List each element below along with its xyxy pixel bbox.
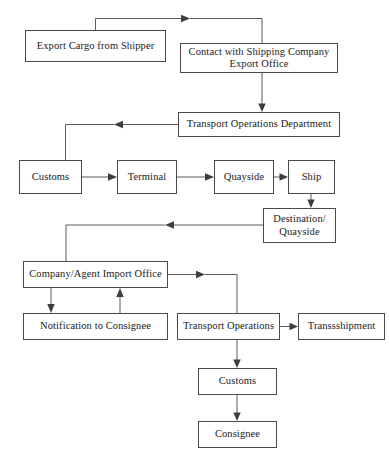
node-label: Customs xyxy=(23,171,78,183)
node-label: Terminal xyxy=(121,171,173,183)
node-transsshipment[interactable]: Transsshipment xyxy=(298,313,385,340)
node-label: Consignee xyxy=(202,428,273,440)
arrowhead-right-quayside xyxy=(205,173,214,180)
arrowhead-down-destination-quayside xyxy=(307,200,314,209)
node-label: Quayside xyxy=(218,171,270,183)
arrowhead-down-transport-operations-department xyxy=(258,104,265,113)
node-label-line2: Export Office xyxy=(184,58,334,70)
node-notification-to-consignee[interactable]: Notification to Consignee xyxy=(23,313,168,340)
node-company-agent-import-office[interactable]: Company/Agent Import Office xyxy=(23,261,168,288)
arrowhead-down-notification xyxy=(47,304,54,313)
node-consignee[interactable]: Consignee xyxy=(198,421,277,448)
arrowhead-right-terminal xyxy=(108,173,117,180)
node-customs-export[interactable]: Customs xyxy=(19,160,82,194)
node-destination-quayside[interactable]: Destination/ Quayside xyxy=(263,208,336,243)
arrowhead-right-top-rail xyxy=(181,15,190,22)
node-label: Export Cargo from Shipper xyxy=(29,40,162,52)
node-label: Company/Agent Import Office xyxy=(27,268,164,280)
node-ship[interactable]: Ship xyxy=(288,160,335,194)
arrowhead-right-transport-operations-rail xyxy=(196,271,205,278)
arrowhead-up-company-agent xyxy=(116,288,123,297)
edge-import-rail-into-company-agent xyxy=(66,225,165,261)
edge-right-rail-into-transport-operations xyxy=(205,275,237,314)
node-label: Transport Operations xyxy=(181,320,276,332)
node-label: Customs xyxy=(202,375,273,387)
edge-export-cargo-to-top-rail xyxy=(96,19,184,31)
node-label: Transsshipment xyxy=(302,320,381,332)
node-label: Destination/ Quayside xyxy=(267,213,332,238)
arrowhead-right-transsshipment xyxy=(290,323,299,330)
node-transport-operations[interactable]: Transport Operations xyxy=(177,313,280,340)
node-terminal[interactable]: Terminal xyxy=(117,160,177,194)
node-label-line1: Contact with Shipping Company xyxy=(184,46,334,58)
node-label: Ship xyxy=(292,171,331,183)
arrowhead-left-import-rail xyxy=(165,221,174,228)
node-label: Contact with Shipping Company Export Off… xyxy=(184,46,334,71)
node-quayside[interactable]: Quayside xyxy=(214,160,274,194)
arrowhead-down-consignee xyxy=(233,413,240,422)
node-transport-operations-department[interactable]: Transport Operations Department xyxy=(178,112,340,137)
arrowhead-down-customs-import xyxy=(233,360,240,369)
node-export-cargo-from-shipper[interactable]: Export Cargo from Shipper xyxy=(25,30,166,62)
node-contact-with-shipping-company-export-office[interactable]: Contact with Shipping Company Export Off… xyxy=(180,43,338,73)
arrowhead-right-ship xyxy=(280,173,289,180)
edge-left-rail-into-customs xyxy=(66,125,115,161)
node-customs-import[interactable]: Customs xyxy=(198,368,277,395)
node-label: Notification to Consignee xyxy=(27,320,164,332)
node-label: Transport Operations Department xyxy=(182,118,336,130)
flowchart-diagram: Export Cargo from Shipper Contact with S… xyxy=(0,0,389,469)
edge-top-rail-into-contact-box xyxy=(190,19,262,44)
arrowhead-left-transport-rail xyxy=(114,121,123,128)
node-label-line1: Destination/ xyxy=(267,213,332,225)
node-label-line2: Quayside xyxy=(267,226,332,238)
